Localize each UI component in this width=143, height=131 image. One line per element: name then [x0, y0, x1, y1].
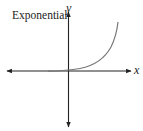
exponential-graph: Exponential x y: [0, 0, 143, 131]
exponential-curve: [48, 22, 118, 71]
x-axis-label: x: [133, 63, 140, 77]
graph-title: Exponential: [12, 9, 68, 22]
y-axis-label: y: [65, 1, 72, 15]
